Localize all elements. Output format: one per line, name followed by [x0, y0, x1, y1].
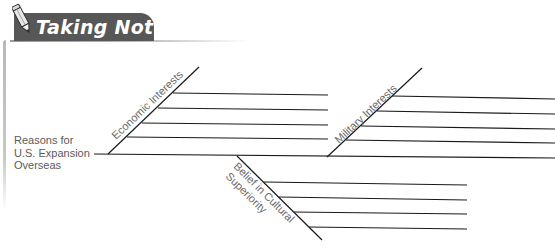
economic-note-line-2[interactable]: [158, 108, 328, 110]
spine-line: [94, 154, 555, 158]
military-note-line-3[interactable]: [361, 126, 555, 129]
economic-note-line-3[interactable]: [142, 123, 328, 125]
economic-interests-label: Economic Interests: [109, 68, 185, 142]
military-interests-label: Military Interests: [332, 82, 399, 146]
economic-note-line-1[interactable]: [173, 93, 328, 95]
fishbone-diagram: Economic Interests Military Interests Be…: [0, 0, 555, 252]
belief-note-line-4[interactable]: [309, 227, 467, 229]
belief-note-line-1[interactable]: [264, 182, 467, 185]
economic-branch-line: [108, 67, 199, 154]
economic-note-line-4[interactable]: [127, 137, 328, 139]
military-note-line-1[interactable]: [392, 96, 555, 99]
military-note-line-4[interactable]: [346, 140, 555, 143]
belief-note-line-2[interactable]: [279, 197, 467, 200]
military-note-line-2[interactable]: [377, 111, 555, 114]
belief-note-line-3[interactable]: [294, 212, 467, 214]
